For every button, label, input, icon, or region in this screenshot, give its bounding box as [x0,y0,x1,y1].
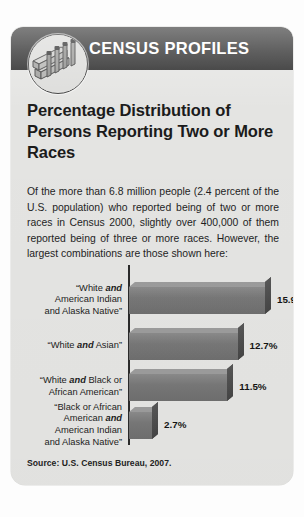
page-root: CENSUS PROFILES [0,0,304,517]
chart-bar [129,374,227,401]
chart-row: “White andAmerican Indianand Alaska Nati… [11,287,293,314]
source-note: Source: U.S. Census Bureau, 2007. [27,458,171,468]
chart-bar-value: 12.7% [250,340,278,351]
chart-bar [129,333,238,360]
chart-row-label: “White andAmerican Indianand Alaska Nati… [18,283,122,318]
chart-bar [129,412,152,439]
chart-bar-fill [129,412,152,439]
chart-row-label: “White and Asian” [18,340,122,352]
chart-bar-value: 11.5% [239,381,266,392]
chart-bar-value: 2.7% [164,419,186,430]
bar-chart: “White andAmerican Indianand Alaska Nati… [11,265,293,445]
chart-bar [129,287,265,314]
page-title: Percentage Distribution of Persons Repor… [27,100,279,163]
chart-row-label: “Black or AfricanAmerican andAmerican In… [18,402,122,448]
chart-bar-fill [129,374,227,401]
chart-row: “White and Asian”12.7% [11,333,293,360]
chart-row: “Black or AfricanAmerican andAmerican In… [11,412,293,439]
census-medallion-icon [28,34,88,94]
chart-row: “White and Black orAfrican American”11.5… [11,374,293,401]
chart-bar-value: 15.9% [277,294,293,305]
chart-bar-fill [129,287,265,314]
chart-row-label: “White and Black orAfrican American” [18,375,122,398]
header-title: CENSUS PROFILES [89,39,249,58]
body-paragraph: Of the more than 6.8 million people (2.4… [27,184,279,262]
chart-bar-fill [129,333,238,360]
census-profile-card: CENSUS PROFILES [11,27,293,485]
